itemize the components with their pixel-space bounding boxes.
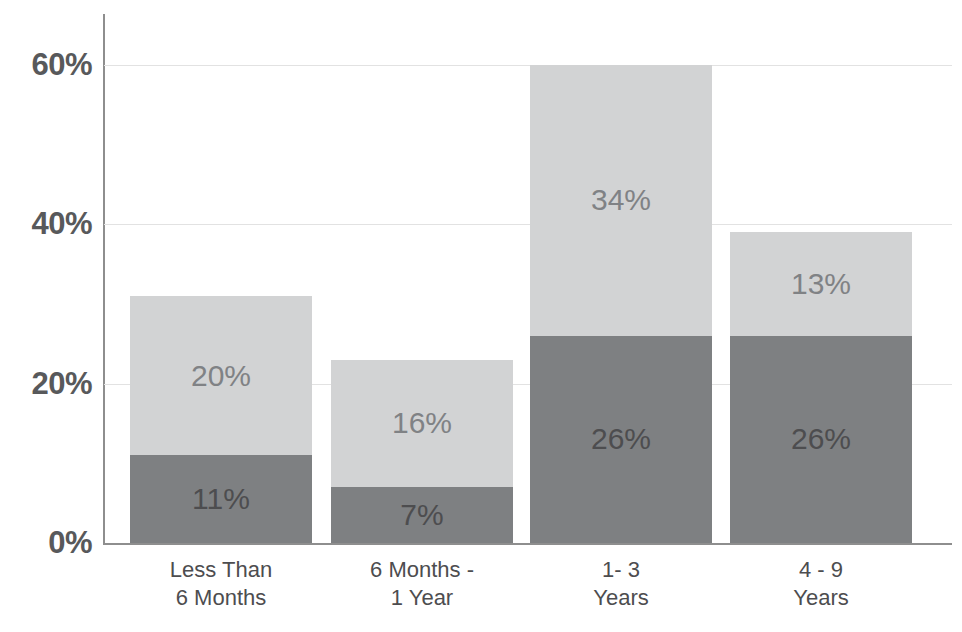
bar-group[interactable]: 13%26% [730, 232, 912, 543]
bar-segment-dark[interactable]: 7% [331, 487, 513, 543]
bar-segment-light[interactable]: 13% [730, 232, 912, 336]
bar-segment-label: 26% [591, 424, 651, 454]
y-tick-label-0: 0% [0, 525, 92, 561]
bar-segment-label: 16% [392, 408, 452, 438]
bar-segment-label: 7% [400, 500, 443, 530]
bar-group[interactable]: 34%26% [530, 65, 712, 544]
bar-group[interactable]: 20%11% [130, 296, 312, 543]
bar-segment-label: 13% [791, 269, 851, 299]
bar-segment-label: 20% [191, 361, 251, 391]
gridline-60 [104, 65, 952, 66]
bar-segment-label: 34% [591, 185, 651, 215]
gridline-40 [104, 224, 952, 225]
bar-segment-dark[interactable]: 11% [130, 455, 312, 543]
axis-baseline [104, 543, 952, 545]
bar-segment-light[interactable]: 34% [530, 65, 712, 336]
bar-segment-label: 26% [791, 424, 851, 454]
bar-segment-label: 11% [192, 484, 250, 514]
bar-segment-dark[interactable]: 26% [530, 336, 712, 543]
y-tick-label-40: 40% [0, 206, 92, 242]
bar-segment-light[interactable]: 16% [331, 360, 513, 488]
bar-segment-dark[interactable]: 26% [730, 336, 912, 543]
stacked-bar-chart: 0%20%40%60% 20%11%16%7%34%26%13%26% Less… [0, 0, 962, 632]
category-label: 6 Months - 1 Year [331, 556, 513, 612]
category-label: 4 - 9 Years [730, 556, 912, 612]
y-tick-label-20: 20% [0, 366, 92, 402]
category-label: 1- 3 Years [530, 556, 712, 612]
y-axis-line [103, 14, 105, 545]
bar-segment-light[interactable]: 20% [130, 296, 312, 456]
category-label: Less Than 6 Months [130, 556, 312, 612]
bar-group[interactable]: 16%7% [331, 360, 513, 543]
y-tick-label-60: 60% [0, 47, 92, 83]
